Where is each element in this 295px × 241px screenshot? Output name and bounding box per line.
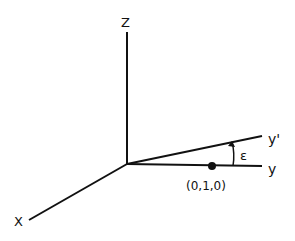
y-prime-axis-label: y' <box>268 131 280 147</box>
y-axis <box>127 164 262 166</box>
x-axis <box>29 164 127 220</box>
y-axis-label: y <box>268 161 276 177</box>
point-label: (0,1,0) <box>186 179 226 193</box>
coordinate-diagram: Z X y y' ε (0,1,0) <box>0 0 295 241</box>
point-marker <box>208 162 216 170</box>
diagram-canvas: Z X y y' ε (0,1,0) <box>0 0 295 241</box>
x-axis-label: X <box>14 214 23 229</box>
epsilon-label: ε <box>240 148 247 163</box>
z-axis-label: Z <box>121 15 130 30</box>
